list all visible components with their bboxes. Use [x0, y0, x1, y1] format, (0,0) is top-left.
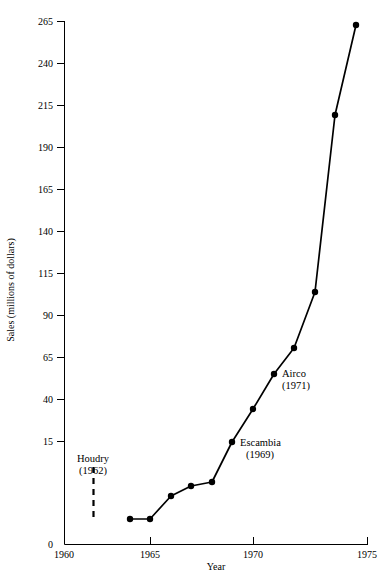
axis-lines — [65, 21, 369, 545]
data-point-1974 — [332, 112, 338, 118]
airco-year-label: (1971) — [282, 380, 310, 392]
houdry-event-marker: Houdry (1962) — [77, 453, 110, 522]
x-tick-label-1965: 1965 — [140, 549, 160, 560]
data-point-1966 — [168, 493, 174, 499]
data-point-1972 — [291, 345, 297, 351]
data-point-1968 — [209, 479, 215, 485]
y-tick-label-15: 15 — [43, 436, 53, 447]
y-axis-title: Sales (millions of dollars) — [5, 238, 17, 342]
y-axis-ticks — [57, 22, 65, 442]
y-tick-label-140: 140 — [38, 226, 53, 237]
data-point-1975 — [353, 22, 359, 28]
y-tick-label-215: 215 — [38, 100, 53, 111]
y-tick-label-265: 265 — [38, 16, 53, 27]
airco-label: Airco — [282, 368, 306, 379]
x-axis-title: Year — [207, 561, 226, 572]
houdry-year-label: (1962) — [79, 465, 107, 477]
y-tick-label-115: 115 — [38, 268, 53, 279]
data-point-1971 — [271, 371, 277, 377]
x-tick-label-1970: 1970 — [243, 549, 263, 560]
y-axis-tick-labels: 265 240 215 190 165 140 115 90 65 40 15 … — [38, 16, 53, 550]
sales-growth-line-chart: 265 240 215 190 165 140 115 90 65 40 15 … — [0, 0, 388, 576]
escambia-annotation: Escambia (1969) — [240, 437, 281, 461]
data-point-1970 — [250, 406, 256, 412]
y-tick-label-90: 90 — [43, 310, 53, 321]
y-tick-label-0: 0 — [48, 539, 53, 550]
escambia-year-label: (1969) — [246, 449, 274, 461]
escambia-label: Escambia — [240, 437, 281, 448]
y-tick-label-65: 65 — [43, 352, 53, 363]
y-tick-label-165: 165 — [38, 184, 53, 195]
chart-container: 265 240 215 190 165 140 115 90 65 40 15 … — [0, 0, 388, 576]
airco-annotation: Airco (1971) — [282, 368, 310, 392]
y-tick-label-240: 240 — [38, 58, 53, 69]
x-tick-label-1960: 1960 — [54, 549, 74, 560]
y-tick-label-40: 40 — [43, 394, 53, 405]
data-point-1964 — [127, 516, 133, 522]
data-point-1969 — [229, 439, 235, 445]
data-point-1973 — [312, 289, 318, 295]
data-point-1965 — [147, 516, 153, 522]
x-tick-label-1975: 1975 — [357, 549, 377, 560]
x-axis-tick-labels: 1960 1965 1970 1975 — [54, 549, 377, 560]
houdry-label: Houdry — [77, 453, 110, 464]
y-tick-label-190: 190 — [38, 142, 53, 153]
data-point-1967 — [188, 483, 194, 489]
x-axis-ticks — [151, 537, 368, 545]
